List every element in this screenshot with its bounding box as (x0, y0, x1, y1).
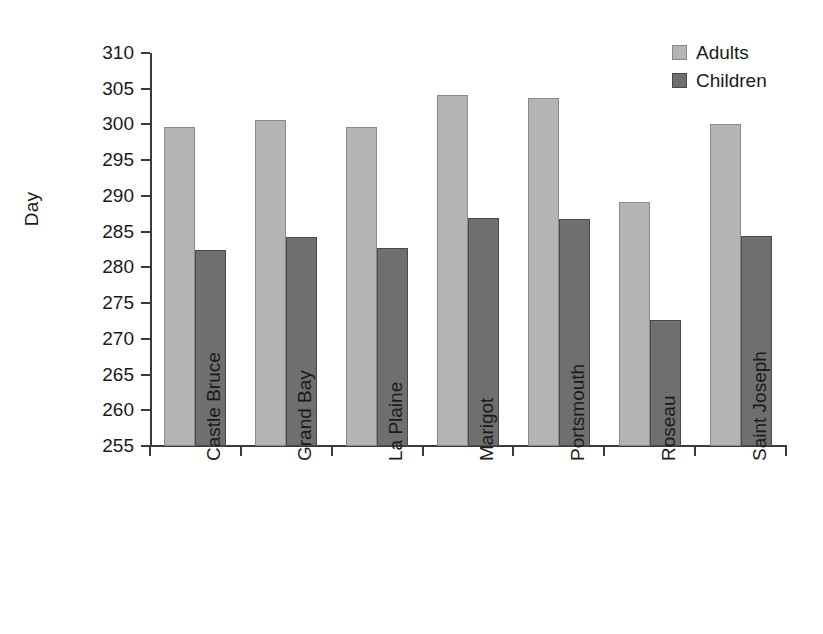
legend-swatch-children-icon (672, 73, 687, 88)
y-axis-tick-label: 270 (78, 329, 134, 348)
x-axis-category-label: Portsmouth (568, 364, 587, 461)
legend: Adults Children (672, 38, 767, 94)
x-axis-tick (694, 445, 696, 456)
x-axis-category-label: La Plaine (386, 382, 405, 461)
y-axis-tick-label: 295 (78, 150, 134, 169)
y-axis-tick (141, 159, 150, 161)
y-axis-tick (141, 374, 150, 376)
y-axis-tick (141, 409, 150, 411)
y-axis-tick-label: 280 (78, 257, 134, 276)
x-axis-category-label: Castle Bruce (204, 352, 223, 461)
y-axis-tick (141, 231, 150, 233)
x-axis-category-label: Marigot (477, 398, 496, 461)
x-axis-tick (149, 445, 151, 456)
x-axis-tick (331, 445, 333, 456)
y-axis-title: Day (21, 159, 43, 259)
bar-adults (710, 124, 741, 446)
y-axis-tick-label: 305 (78, 79, 134, 98)
bar-adults (437, 95, 468, 446)
x-axis-category-label: Roseau (659, 396, 678, 462)
y-axis-tick (141, 52, 150, 54)
y-axis-tick-label: 300 (78, 114, 134, 133)
y-axis-tick (141, 88, 150, 90)
legend-label-children: Children (696, 71, 767, 90)
x-axis-tick (785, 445, 787, 456)
x-axis-tick (240, 445, 242, 456)
bar-adults (619, 202, 650, 446)
x-axis-category-label: Grand Bay (295, 370, 314, 461)
y-axis-tick-label: 290 (78, 186, 134, 205)
y-axis-tick-label: 310 (78, 43, 134, 62)
y-axis-tick-label: 265 (78, 365, 134, 384)
y-axis-tick (141, 123, 150, 125)
x-axis-tick (422, 445, 424, 456)
y-axis-tick (141, 302, 150, 304)
bar-adults (346, 127, 377, 446)
bar-chart: Day 255260265270275280285290295300305310… (0, 0, 823, 634)
y-axis-tick (141, 266, 150, 268)
y-axis-tick-label: 255 (78, 436, 134, 455)
y-axis-tick-label: 260 (78, 400, 134, 419)
x-axis-category-label: Saint Joseph (750, 351, 769, 461)
legend-swatch-adults-icon (672, 45, 687, 60)
y-axis-line (150, 53, 152, 447)
y-axis-tick (141, 195, 150, 197)
x-axis-tick (603, 445, 605, 456)
bar-adults (255, 120, 286, 446)
y-axis-tick-label: 275 (78, 293, 134, 312)
bar-adults (528, 98, 559, 446)
y-axis-tick (141, 338, 150, 340)
y-axis-tick-label: 285 (78, 222, 134, 241)
x-axis-tick (512, 445, 514, 456)
bar-adults (164, 127, 195, 446)
legend-label-adults: Adults (696, 43, 749, 62)
legend-item-children: Children (672, 66, 767, 94)
legend-item-adults: Adults (672, 38, 767, 66)
